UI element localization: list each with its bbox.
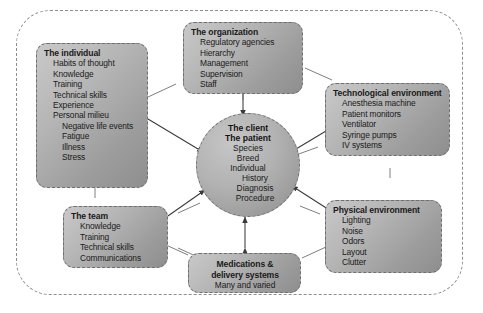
node-individual[interactable]: The individual Habits of thought Knowled… bbox=[36, 43, 148, 188]
node-technological-item: Patient monitors bbox=[333, 109, 443, 119]
center-item: Breed bbox=[197, 153, 299, 163]
node-organization-item: Staff bbox=[191, 79, 296, 89]
tether-organization bbox=[305, 68, 332, 80]
node-technological-item: Anesthesia machine bbox=[333, 98, 443, 108]
center-item: History bbox=[197, 173, 299, 183]
node-medications-title-line2: delivery systems bbox=[196, 270, 294, 281]
node-individual-subitem: Fatigue bbox=[44, 131, 141, 141]
node-physical-environment[interactable]: Physical environment Lighting Noise Odor… bbox=[325, 200, 442, 273]
node-medications-title-line1: Medications & bbox=[196, 259, 294, 270]
node-technological-environment[interactable]: Technological environment Anesthesia mac… bbox=[325, 83, 450, 156]
center-item: Species bbox=[197, 143, 299, 153]
node-team-title: The team bbox=[71, 211, 161, 221]
node-client-patient[interactable]: The client The patient Species Breed Ind… bbox=[196, 113, 300, 217]
node-physical-item: Clutter bbox=[333, 257, 435, 267]
node-organization-title: The organization bbox=[191, 27, 296, 37]
node-individual-subitem: Illness bbox=[44, 142, 141, 152]
center-title-client: The client bbox=[197, 123, 299, 133]
node-organization-item: Regulatory agencies bbox=[191, 37, 296, 47]
diagram-canvas: The individual Habits of thought Knowled… bbox=[0, 0, 483, 313]
tether-medications-right bbox=[302, 247, 326, 258]
node-medications-item: Many and varied bbox=[196, 280, 294, 290]
link-individual-center bbox=[148, 119, 203, 152]
node-individual-item: Personal milieu bbox=[44, 110, 141, 120]
node-individual-item: Experience bbox=[44, 100, 141, 110]
node-technological-item: IV systems bbox=[333, 140, 443, 150]
node-physical-item: Layout bbox=[333, 247, 435, 257]
tether-physical bbox=[300, 206, 320, 214]
node-team-item: Training bbox=[71, 232, 161, 242]
node-team[interactable]: The team Knowledge Training Technical sk… bbox=[63, 206, 168, 268]
node-technological-item: Syringe pumps bbox=[333, 130, 443, 140]
node-individual-subitem: Stress bbox=[44, 152, 141, 162]
node-organization[interactable]: The organization Regulatory agencies Hie… bbox=[183, 22, 303, 94]
node-physical-title: Physical environment bbox=[333, 205, 435, 215]
node-individual-title: The individual bbox=[44, 48, 141, 58]
tether-individual bbox=[148, 84, 176, 97]
center-item: Diagnosis bbox=[197, 183, 299, 193]
node-organization-item: Supervision bbox=[191, 69, 296, 79]
node-organization-item: Management bbox=[191, 58, 296, 68]
node-team-item: Knowledge bbox=[71, 221, 161, 231]
tether-team bbox=[178, 203, 200, 213]
tether-technological bbox=[296, 147, 318, 155]
node-technological-title: Technological environment bbox=[333, 88, 443, 98]
node-organization-item: Hierarchy bbox=[191, 48, 296, 58]
node-individual-subitem: Negative life events bbox=[44, 121, 141, 131]
node-individual-item: Training bbox=[44, 79, 141, 89]
center-title-patient: The patient bbox=[197, 133, 299, 143]
node-physical-item: Odors bbox=[333, 236, 435, 246]
node-physical-item: Noise bbox=[333, 226, 435, 236]
node-technological-item: Ventilator bbox=[333, 119, 443, 129]
center-item: Procedure bbox=[197, 193, 299, 203]
tether-medications-left bbox=[166, 245, 188, 255]
node-individual-item: Knowledge bbox=[44, 69, 141, 79]
node-team-item: Communications bbox=[71, 253, 161, 263]
node-medications[interactable]: Medications & delivery systems Many and … bbox=[188, 253, 301, 293]
node-team-item: Technical skills bbox=[71, 242, 161, 252]
node-individual-item: Technical skills bbox=[44, 90, 141, 100]
node-physical-item: Lighting bbox=[333, 215, 435, 225]
node-individual-item: Habits of thought bbox=[44, 58, 141, 68]
center-item: Individual bbox=[197, 163, 299, 173]
